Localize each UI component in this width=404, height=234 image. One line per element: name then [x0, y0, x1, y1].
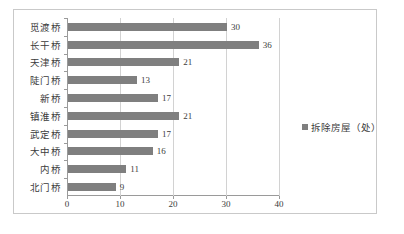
bar[interactable] — [68, 165, 126, 173]
y-tick-mark — [64, 125, 67, 126]
category-label: 大中桥 — [30, 144, 61, 158]
bar-value-label: 36 — [259, 40, 272, 50]
category-label: 镇淮桥 — [30, 109, 61, 123]
y-tick-mark — [64, 178, 67, 179]
category-label: 北门桥 — [30, 180, 61, 194]
bar-row: 天津桥21 — [67, 54, 279, 72]
category-label: 内桥 — [40, 162, 61, 176]
category-label: 陡门桥 — [30, 73, 61, 87]
bar-value-label: 17 — [158, 93, 171, 103]
category-label: 长干桥 — [30, 38, 61, 52]
x-tick-label: 0 — [65, 199, 70, 209]
bar-row: 觅渡桥30 — [67, 18, 279, 36]
category-label: 天津桥 — [30, 55, 61, 69]
bar[interactable] — [68, 23, 227, 31]
y-tick-mark — [64, 36, 67, 37]
bar-value-label: 11 — [126, 164, 139, 174]
y-tick-mark — [64, 54, 67, 55]
bar[interactable] — [68, 94, 158, 102]
bar-row: 长干桥36 — [67, 36, 279, 54]
bar[interactable] — [68, 112, 179, 120]
bar-row: 内桥11 — [67, 160, 279, 178]
bar[interactable] — [68, 76, 137, 84]
y-tick-mark — [64, 160, 67, 161]
bar-value-label: 30 — [227, 22, 240, 32]
bar-value-label: 21 — [179, 57, 192, 67]
x-tick-label: 20 — [169, 199, 178, 209]
bar[interactable] — [68, 58, 179, 66]
x-tick-label: 40 — [275, 199, 284, 209]
bar-row: 镇淮桥21 — [67, 107, 279, 125]
y-tick-mark — [64, 107, 67, 108]
bar-value-label: 21 — [179, 111, 192, 121]
gridline — [279, 18, 280, 196]
bar-value-label: 9 — [116, 182, 125, 192]
chart-legend: 拆除房屋（处） — [302, 120, 381, 134]
bar[interactable] — [68, 41, 259, 49]
legend-label: 拆除房屋（处） — [311, 120, 381, 134]
x-axis-tick-labels: 010203040 — [67, 196, 279, 214]
x-tick-label: 10 — [116, 199, 125, 209]
category-label: 武定桥 — [30, 127, 61, 141]
category-label: 新桥 — [40, 91, 61, 105]
bar-row: 大中桥16 — [67, 143, 279, 161]
bar-value-label: 17 — [158, 129, 171, 139]
bar-row: 陡门桥13 — [67, 71, 279, 89]
y-tick-mark — [64, 89, 67, 90]
chart-frame: 觅渡桥30长干桥36天津桥21陡门桥13新桥17镇淮桥21武定桥17大中桥16内… — [13, 9, 377, 214]
bar[interactable] — [68, 130, 158, 138]
plot-area: 觅渡桥30长干桥36天津桥21陡门桥13新桥17镇淮桥21武定桥17大中桥16内… — [67, 18, 279, 196]
bar-row: 北门桥9 — [67, 178, 279, 196]
y-tick-mark — [64, 18, 67, 19]
legend-swatch-icon — [302, 124, 308, 130]
bar-row: 新桥17 — [67, 89, 279, 107]
bar-value-label: 16 — [153, 146, 166, 156]
bar[interactable] — [68, 183, 116, 191]
y-tick-mark — [64, 71, 67, 72]
bar-value-label: 13 — [137, 75, 150, 85]
y-tick-mark — [64, 143, 67, 144]
category-label: 觅渡桥 — [30, 20, 61, 34]
bar[interactable] — [68, 147, 153, 155]
bar-row: 武定桥17 — [67, 125, 279, 143]
x-tick-label: 30 — [222, 199, 231, 209]
